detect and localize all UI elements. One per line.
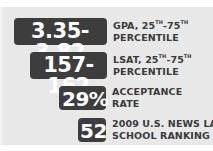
gpa-label-sup: TH [181,19,189,25]
gpa-label: GPA, 25TH-75TH PERCENTILE [113,20,188,44]
stat-ranking: 52 2009 U.S. NEWS LAW SCHOOL RANKING [78,118,213,142]
ranking-value-badge: 52 [78,118,106,142]
lsat-label-text: -75 [166,54,183,65]
ranking-label: 2009 U.S. NEWS LAW SCHOOL RANKING [112,118,213,142]
gpa-label-text: GPA, 25 [113,20,155,31]
ranking-label-line1: 2009 U.S. NEWS LAW [112,118,213,130]
lsat-label-line1: LSAT, 25TH-75TH [113,54,192,66]
gpa-label-line2: PERCENTILE [113,32,188,44]
gpa-value-badge: 3.35-3.82 [14,18,107,45]
lsat-label: LSAT, 25TH-75TH PERCENTILE [113,54,192,78]
acceptance-label: ACCEPTANCE RATE [112,86,182,110]
lsat-value-badge: 157-162 [30,52,107,79]
lsat-label-sup: TH [184,53,192,59]
stat-acceptance-rate: 29% ACCEPTANCE RATE [59,86,182,110]
stat-lsat: 157-162 LSAT, 25TH-75TH PERCENTILE [30,52,192,79]
ranking-label-line2: SCHOOL RANKING [112,130,213,142]
acceptance-label-line1: ACCEPTANCE [112,86,182,98]
gpa-label-sup: TH [155,19,163,25]
acceptance-value-badge: 29% [59,86,106,110]
stat-gpa: 3.35-3.82 GPA, 25TH-75TH PERCENTILE [14,18,188,45]
lsat-label-line2: PERCENTILE [113,66,192,78]
gpa-label-text: -75 [163,20,180,31]
lsat-label-text: LSAT, 25 [113,54,159,65]
gpa-label-line1: GPA, 25TH-75TH [113,20,188,32]
acceptance-label-line2: RATE [112,98,182,110]
stats-panel: 3.35-3.82 GPA, 25TH-75TH PERCENTILE 157-… [0,7,213,145]
